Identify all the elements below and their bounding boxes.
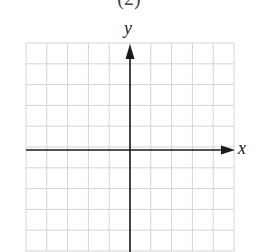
- coordinate-grid: [0, 0, 258, 252]
- y-axis: [126, 44, 135, 252]
- y-axis-arrow-icon: [126, 44, 135, 59]
